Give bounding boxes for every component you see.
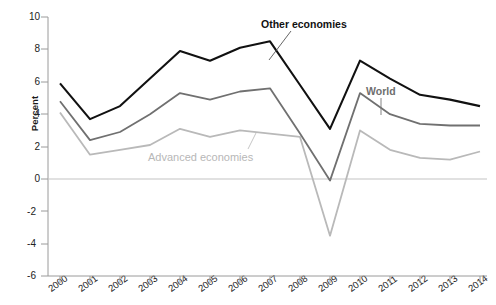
series-label-world: World <box>366 85 396 97</box>
series-line-other-economies <box>60 41 480 129</box>
y-tick-marks <box>41 17 48 276</box>
x-tick-marks <box>60 276 480 283</box>
chart-container: Percent 10 8 6 4 2 0 -2 -4 -6 2000 2001 … <box>0 0 496 305</box>
series-label-other-economies: Other economies <box>261 18 347 30</box>
series-label-advanced-economies: Advanced economies <box>148 151 253 163</box>
leader-line-advanced-economies <box>248 133 256 149</box>
